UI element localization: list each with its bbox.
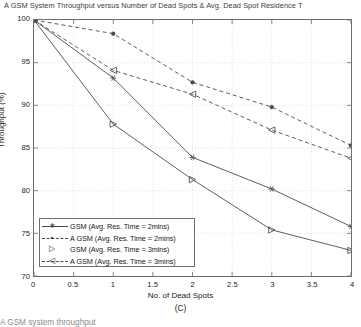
y-tick-label: 90 [4, 100, 30, 109]
y-tick-label: 75 [4, 229, 30, 238]
legend-label: GSM (Avg. Res. Time = 3mins) [70, 245, 169, 254]
x-tick-label: 1 [98, 280, 128, 289]
x-tick-label: 3 [257, 280, 287, 289]
legend-marker-icon: • [40, 233, 70, 244]
legend-marker-icon: ∗ [40, 221, 70, 232]
legend-glyph-icon: ∗ [49, 222, 56, 230]
legend-label: A GSM (Avg. Res. Time = 3mins) [70, 257, 176, 266]
legend-item: ∗GSM (Avg. Res. Time = 2mins) [40, 221, 194, 233]
legend-item: ◁A GSM (Avg. Res. Time = 3mins) [40, 256, 194, 268]
legend-glyph-icon: ◁ [49, 257, 55, 265]
caption-partial: A GSM system throughput [0, 318, 361, 327]
legend-line [42, 238, 68, 239]
x-axis-label: No. of Dead Spots [0, 291, 361, 300]
y-tick-label: 85 [4, 143, 30, 152]
panel-label: (C) [0, 303, 361, 313]
legend-label: GSM (Avg. Res. Time = 2mins) [70, 222, 169, 231]
x-tick-label: 2.5 [217, 280, 247, 289]
legend-item: ▷GSM (Avg. Res. Time = 3mins) [40, 244, 194, 256]
y-axis-label: Throughput (%) [0, 92, 6, 148]
legend-label: A GSM (Avg. Res. Time = 2mins) [70, 234, 176, 243]
legend-marker-icon: ◁ [40, 256, 70, 267]
x-tick-label: 0.5 [58, 280, 88, 289]
x-tick-label: 1.5 [138, 280, 168, 289]
figure-panel-c: A GSM System Throughput versus Number of… [0, 0, 361, 327]
chart-legend: ∗GSM (Avg. Res. Time = 2mins)•A GSM (Avg… [39, 218, 195, 267]
legend-glyph-icon: • [51, 234, 54, 242]
legend-marker-icon: ▷ [40, 244, 70, 255]
y-tick-label: 95 [4, 57, 30, 66]
x-tick-label: 2 [178, 280, 208, 289]
legend-glyph-icon: ▷ [49, 245, 55, 253]
x-tick-label: 0 [18, 280, 48, 289]
legend-line [42, 261, 68, 262]
x-tick-label: 4 [337, 280, 361, 289]
y-tick-label: 100 [4, 14, 30, 23]
chart-title: A GSM System Throughput versus Number of… [4, 1, 361, 10]
x-tick-label: 3.5 [297, 280, 327, 289]
legend-item: •A GSM (Avg. Res. Time = 2mins) [40, 233, 194, 245]
y-tick-label: 80 [4, 186, 30, 195]
